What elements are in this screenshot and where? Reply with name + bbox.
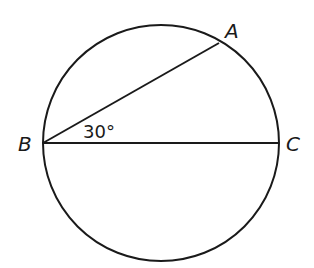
chord-ba — [43, 43, 219, 143]
point-label-c: C — [286, 132, 300, 156]
angle-label: 30° — [83, 121, 115, 142]
circle-diagram: A B C 30° — [0, 0, 314, 268]
point-label-b: B — [18, 132, 32, 156]
point-label-a: A — [223, 19, 239, 43]
